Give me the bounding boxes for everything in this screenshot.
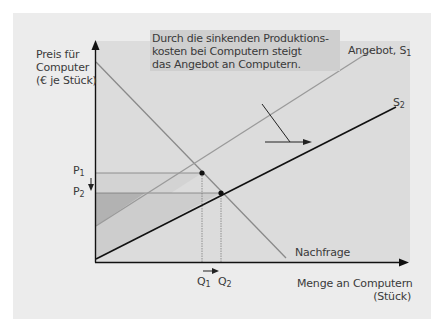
y-axis-label: Preis für Computer (€ je Stück): [36, 48, 97, 87]
quantity-increase-arrow-head-icon: [212, 268, 219, 274]
x-axis-label-line-1: Menge an Computern: [297, 277, 411, 290]
y-axis-label-line-1: Preis für: [36, 48, 97, 61]
q1-label: Q1: [197, 275, 210, 291]
equilibrium-point-2: [218, 190, 223, 195]
annotation-line-1: Durch die sinkenden Produktions-: [152, 32, 340, 45]
annotation-line-2: kosten bei Computern steigt: [152, 45, 340, 58]
y-axis-label-line-2: Computer: [36, 61, 97, 74]
equilibrium-point-1: [199, 170, 204, 175]
supply-s1-label: Angebot, S1: [348, 44, 411, 60]
p2-label: P2: [73, 185, 84, 201]
q2-label: Q2: [218, 275, 231, 291]
p1-label: P1: [73, 164, 84, 180]
y-axis-label-line-3: (€ je Stück): [36, 74, 97, 87]
demand-label: Nachfrage: [295, 246, 350, 259]
annotation-box: Durch die sinkenden Produktions- kosten …: [150, 30, 340, 71]
x-axis-label: Menge an Computern (Stück): [297, 277, 411, 303]
annotation-line-3: das Angebot an Computern.: [152, 58, 340, 71]
price-drop-arrow-head-icon: [88, 184, 94, 191]
supply-s2-label: S2: [393, 96, 405, 112]
x-axis-label-line-2: (Stück): [297, 290, 411, 303]
